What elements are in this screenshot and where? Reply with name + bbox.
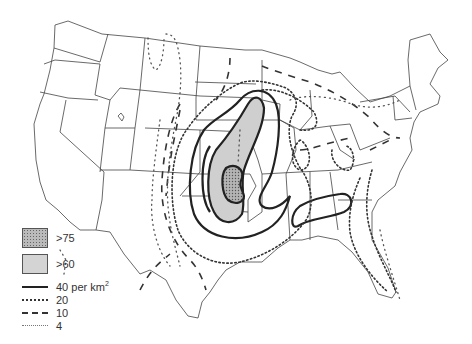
dotted-line-icon: [22, 299, 48, 301]
legend-item-10: 10: [22, 306, 132, 319]
dashed-line-icon: [22, 312, 48, 314]
solid-line-icon: [22, 286, 48, 288]
legend-item-4: 4: [22, 319, 132, 332]
legend-item-gt75: >75: [22, 226, 132, 250]
legend-label: 20: [56, 294, 68, 306]
grey-swatch-icon: [22, 254, 48, 274]
legend: >75 >60 40 per km2 20 10 4: [22, 226, 132, 332]
sparse-dotted-line-icon: [22, 325, 48, 326]
stipple-swatch-icon: [22, 228, 48, 248]
contour-40-south: [292, 194, 351, 227]
legend-label: >75: [56, 232, 75, 244]
legend-label: >60: [56, 258, 75, 270]
legend-item-20: 20: [22, 293, 132, 306]
contour-20-se: [349, 170, 396, 292]
legend-label: 4: [56, 320, 62, 332]
legend-label: 10: [56, 307, 68, 319]
legend-item-40: 40 per km2: [22, 280, 132, 293]
legend-item-gt60: >60: [22, 252, 132, 276]
region-gt75: [222, 166, 244, 203]
legend-label: 40 per km2: [56, 280, 109, 293]
